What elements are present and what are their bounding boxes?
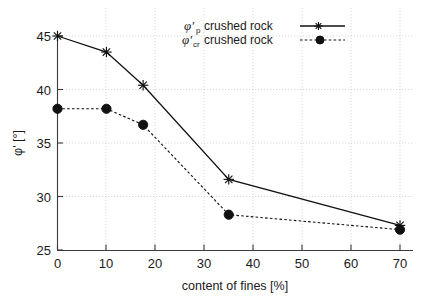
y-tick-label-30: 30 <box>37 190 51 205</box>
legend-symbol-critical: φ' <box>182 32 192 47</box>
x-tick-label-30: 30 <box>197 256 211 271</box>
y-tick-label-45: 45 <box>37 29 51 44</box>
y-axis-title: φ' [°] <box>11 130 25 156</box>
data-point-marker <box>224 174 234 184</box>
data-point-marker <box>395 225 404 234</box>
y-tick-label-35: 35 <box>37 136 51 151</box>
legend-label-critical: crushed rock <box>204 33 274 47</box>
y-tick-label-25: 25 <box>37 243 51 258</box>
x-tick-label-70: 70 <box>393 256 407 271</box>
data-point-marker <box>224 210 233 219</box>
data-point-marker <box>139 120 148 129</box>
data-point-marker <box>138 80 148 90</box>
legend-label-peak: crushed rock <box>204 19 274 33</box>
data-point-marker <box>52 31 62 41</box>
chart-svg: 25 30 35 40 45 0 10 20 30 40 50 60 70 co… <box>0 0 421 301</box>
x-tick-label-0: 0 <box>54 256 61 271</box>
y-tick-label-40: 40 <box>37 83 51 98</box>
legend-subscript-peak: p <box>196 26 201 35</box>
x-tick-label-10: 10 <box>99 256 113 271</box>
chart-figure: 25 30 35 40 45 0 10 20 30 40 50 60 70 co… <box>0 0 421 301</box>
legend-subscript-critical: cr <box>193 40 200 49</box>
x-axis-title: content of fines [%] <box>182 279 288 293</box>
x-tick-label-60: 60 <box>344 256 358 271</box>
legend-marker-star <box>315 22 323 30</box>
legend-symbol-peak: φ' <box>184 18 194 33</box>
x-tick-label-50: 50 <box>295 256 309 271</box>
data-point-marker <box>53 104 62 113</box>
data-point-marker <box>101 47 111 57</box>
x-tick-label-20: 20 <box>148 256 162 271</box>
x-tick-label-40: 40 <box>246 256 260 271</box>
data-point-marker <box>102 104 111 113</box>
legend-marker-circle <box>316 36 324 44</box>
